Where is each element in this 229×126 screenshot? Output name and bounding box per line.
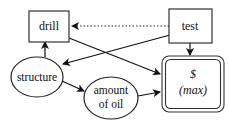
node-test[interactable]: test [169,9,212,43]
edge-test-to-structure [63,35,170,64]
node-test-label: test [182,19,199,33]
edge-structure-to-amount [62,81,84,91]
node-structure[interactable]: structure [11,57,63,97]
node-value-label-line1: $ [190,67,196,81]
node-amount-label-line2: of oil [99,98,124,110]
edge-drill-to-value [69,38,160,74]
influence-diagram: drill test structure amount of oil $ (ma… [0,0,229,126]
node-drill-label: drill [39,19,60,33]
node-amount-of-oil[interactable]: amount of oil [84,77,138,119]
node-value-label-line2: (max) [179,83,207,97]
edge-amount-to-value [138,92,160,96]
node-amount-label-line1: amount [94,84,129,96]
node-drill[interactable]: drill [29,11,69,42]
node-structure-label: structure [17,71,57,83]
node-value[interactable]: $ (max) [162,56,224,112]
